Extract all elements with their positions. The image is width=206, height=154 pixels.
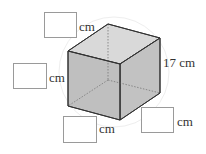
unit-label: cm bbox=[79, 20, 95, 33]
edge-length-label: 17 cm bbox=[163, 56, 195, 69]
answer-box-left[interactable] bbox=[13, 63, 47, 89]
answer-box-bottom[interactable] bbox=[63, 116, 97, 143]
answer-box-right[interactable] bbox=[141, 107, 174, 133]
cube-diagram: 17 cm cm cm cm cm bbox=[0, 0, 206, 154]
answer-box-top[interactable] bbox=[44, 12, 77, 38]
unit-label: cm bbox=[99, 122, 115, 135]
unit-label: cm bbox=[177, 115, 193, 128]
unit-label: cm bbox=[49, 71, 65, 84]
